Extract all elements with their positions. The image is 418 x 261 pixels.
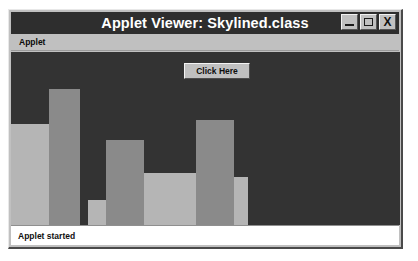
minimize-icon (345, 24, 354, 26)
maximize-icon (364, 18, 373, 26)
menu-item-applet[interactable]: Applet (11, 37, 45, 47)
window-controls: X (341, 14, 396, 30)
skyline-bar (234, 177, 248, 225)
applet-viewer-window: Applet Viewer: Skylined.class X Applet C… (8, 9, 403, 249)
click-here-button[interactable]: Click Here (184, 63, 250, 79)
applet-canvas: Click Here (11, 52, 400, 225)
close-button[interactable]: X (379, 14, 396, 30)
status-text: Applet started (11, 231, 75, 241)
status-bar: Applet started (11, 225, 399, 245)
skyline-bar (144, 173, 196, 225)
title-bar[interactable]: Applet Viewer: Skylined.class X (11, 12, 399, 34)
skyline-bar (11, 124, 49, 225)
skyline-bar (106, 140, 144, 225)
skyline-bar (49, 89, 80, 225)
window-title: Applet Viewer: Skylined.class (101, 15, 308, 31)
close-icon: X (383, 16, 391, 28)
menu-bar: Applet (11, 34, 399, 51)
minimize-button[interactable] (341, 14, 358, 30)
skyline-bar (196, 120, 234, 225)
maximize-button[interactable] (360, 14, 377, 30)
